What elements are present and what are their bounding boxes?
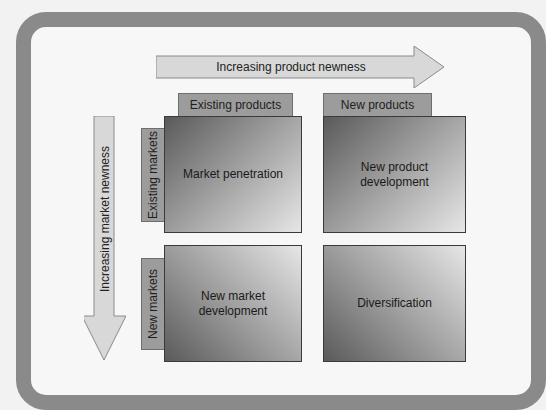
cell-label: New market development bbox=[199, 289, 268, 319]
cell-label: New product development bbox=[360, 160, 429, 190]
column-header-new-products: New products bbox=[323, 93, 432, 117]
market-newness-label-wrap: Increasing market newness bbox=[84, 116, 126, 321]
cell-label: Diversification bbox=[357, 296, 432, 311]
row-header-existing-markets-label: Existing markets bbox=[146, 131, 160, 219]
market-newness-arrow: Increasing market newness bbox=[84, 116, 126, 361]
cell-market-penetration: Market penetration bbox=[164, 116, 302, 233]
row-header-existing-markets: Existing markets bbox=[141, 128, 165, 222]
product-newness-arrow: Increasing product newness bbox=[156, 46, 446, 88]
product-newness-label: Increasing product newness bbox=[156, 46, 426, 88]
cell-new-product-development: New product development bbox=[323, 116, 466, 233]
cell-new-market-development: New market development bbox=[164, 245, 302, 362]
cell-diversification: Diversification bbox=[323, 245, 466, 362]
row-header-new-markets: New markets bbox=[141, 258, 165, 350]
column-header-existing-products: Existing products bbox=[178, 93, 293, 117]
row-header-new-markets-label: New markets bbox=[146, 269, 160, 339]
cell-label: Market penetration bbox=[183, 167, 283, 182]
market-newness-label: Increasing market newness bbox=[98, 145, 112, 291]
